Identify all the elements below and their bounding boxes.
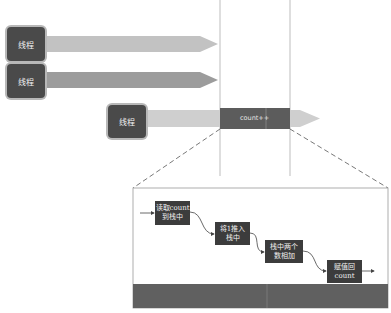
thread-box-1: 线程 <box>7 27 45 61</box>
thread-2-arrow <box>45 72 218 88</box>
step-text: 数相加 <box>274 252 295 261</box>
step-text: 栈中两个 <box>270 243 298 252</box>
zoom-line-left <box>133 129 220 188</box>
step-add-values: 栈中两个 数相加 <box>265 240 303 263</box>
step-text: count <box>335 272 355 281</box>
count-increment-label: count++ <box>240 114 269 122</box>
thread-box-3: 线程 <box>108 105 146 138</box>
step-assign-count: 赋值回 count <box>327 260 362 283</box>
thread-label: 线程 <box>18 39 34 50</box>
step-text: 到栈中 <box>162 213 183 222</box>
step-read-count: 读取count 到栈中 <box>155 201 190 225</box>
step-text: 读取count <box>156 204 190 213</box>
thread-label: 线程 <box>18 76 34 87</box>
zoom-line-right <box>290 129 388 188</box>
thread-1-arrow <box>45 36 218 52</box>
step-push-one: 将1推入 栈中 <box>215 222 250 245</box>
step-text: 栈中 <box>226 234 240 243</box>
thread-box-2: 线程 <box>7 64 45 98</box>
thread-label: 线程 <box>119 116 135 127</box>
step-text: 赋值回 <box>334 263 355 272</box>
zoom-bottom-bar <box>133 284 388 308</box>
step-text: 将1推入 <box>220 225 245 234</box>
